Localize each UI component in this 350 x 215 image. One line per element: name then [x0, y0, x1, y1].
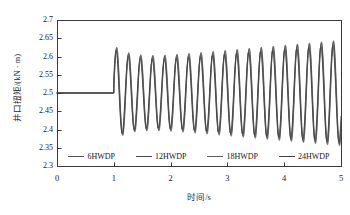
x-axis-title: 时间/s [57, 192, 341, 203]
x-tick-label: 1 [102, 174, 126, 183]
x-axis-tick-labels: 012345 [0, 0, 350, 215]
x-tick-label: 5 [329, 174, 350, 183]
x-tick-label: 0 [45, 174, 69, 183]
x-tick-label: 4 [272, 174, 296, 183]
x-tick-label: 2 [159, 174, 183, 183]
x-tick-label: 3 [215, 174, 239, 183]
chart-figure: 井口扭矩/(kN · m) 2.32.352.42.452.52.552.62.… [0, 0, 350, 215]
